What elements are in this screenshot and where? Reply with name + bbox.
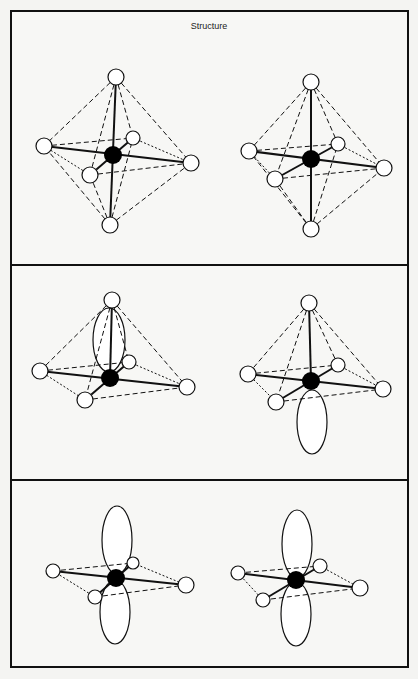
square-planar-left xyxy=(46,506,194,644)
molecular-structures-diagram: .bond { stroke:#111; stroke-width:2; fil… xyxy=(0,0,418,679)
octahedral-left xyxy=(36,69,199,233)
octahedral-right xyxy=(241,74,392,237)
square-pyramidal-right xyxy=(240,295,391,454)
square-planar-right xyxy=(231,510,368,646)
square-pyramidal-left xyxy=(32,292,195,408)
